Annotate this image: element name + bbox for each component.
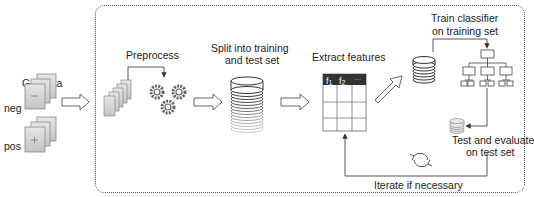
test-arrow — [468, 88, 487, 126]
gears-icon — [151, 86, 185, 113]
decision-tree-icon — [461, 50, 513, 86]
training-database-icon — [413, 57, 435, 84]
neg-documents-icon — [25, 74, 56, 109]
feature-table-icon: f1 f2 ··· — [323, 74, 366, 131]
dataset-database-icon — [231, 77, 263, 133]
arrow-right-icon — [62, 94, 89, 110]
pos-documents-icon — [25, 117, 56, 152]
arrow-diagonal-icon — [375, 76, 402, 103]
document-stack-icon — [104, 80, 131, 116]
arrow-right-icon — [281, 94, 309, 110]
arrow-right-icon — [194, 94, 222, 110]
iterate-arrow — [345, 136, 487, 176]
test-database-icon — [450, 119, 464, 134]
table-header-more: ··· — [354, 76, 361, 83]
train-arrow — [433, 39, 487, 52]
preprocess-arrow — [128, 67, 164, 80]
refresh-cycle-icon — [410, 153, 432, 167]
